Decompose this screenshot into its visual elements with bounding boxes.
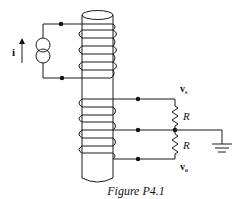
primary-coil [79, 24, 117, 78]
vo-label: vo [180, 161, 188, 173]
current-source-icon [36, 38, 50, 63]
current-label: i [12, 46, 15, 58]
node-dot [59, 22, 63, 26]
node-dot [60, 76, 64, 80]
resistor-top-label: R [182, 110, 190, 122]
resistor-top-icon [172, 103, 178, 130]
circuit-diagram: i vs R R vo Figure P4.1 [0, 0, 247, 199]
ground-icon [212, 144, 232, 152]
secondary-coil [79, 99, 116, 159]
resistor-bottom-icon [172, 130, 178, 155]
current-arrow-icon [19, 38, 25, 63]
figure-caption: Figure P4.1 [106, 184, 165, 198]
node-dot [136, 128, 140, 132]
resistor-bottom-label: R [182, 139, 190, 151]
output-circuit [113, 97, 222, 161]
node-dot [136, 97, 140, 101]
source-circuit [43, 22, 113, 80]
vs-label: vs [180, 83, 188, 95]
cylindrical-core [82, 11, 113, 183]
node-dot [136, 157, 140, 161]
